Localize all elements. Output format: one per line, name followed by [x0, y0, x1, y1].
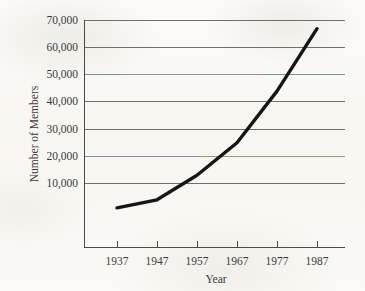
chart-canvas: 70,000 60,000 50,000 40,000 30,000 20,00… — [0, 0, 365, 291]
x-tick-label-1957: 1957 — [186, 255, 209, 267]
y-axis-title: Number of Members — [28, 85, 40, 182]
line-chart-figure: 70,000 60,000 50,000 40,000 30,000 20,00… — [0, 0, 365, 291]
x-tick-label-1947: 1947 — [146, 255, 169, 267]
x-axis-title: Year — [205, 273, 226, 285]
y-axis-tick-labels: 70,000 60,000 50,000 40,000 30,000 20,00… — [46, 14, 78, 190]
x-tick-label-1987: 1987 — [306, 255, 329, 267]
y-tick-label-20000: 20,000 — [46, 150, 78, 163]
x-tick-label-1937: 1937 — [106, 255, 129, 267]
data-series-group — [117, 29, 317, 208]
y-tick-label-50000: 50,000 — [46, 68, 78, 81]
x-tick-label-1967: 1967 — [226, 255, 249, 267]
y-tick-label-10000: 10,000 — [46, 177, 78, 190]
series-line-number-of-members — [117, 29, 317, 208]
y-tick-label-60000: 60,000 — [46, 41, 78, 54]
x-axis-tick-marks — [118, 241, 318, 247]
axes — [84, 20, 345, 248]
y-tick-label-70000: 70,000 — [46, 14, 78, 27]
y-tick-label-30000: 30,000 — [46, 123, 78, 136]
y-tick-label-40000: 40,000 — [46, 95, 78, 108]
x-tick-label-1977: 1977 — [266, 255, 289, 267]
x-axis-tick-labels: 1937 1947 1957 1967 1977 1987 — [106, 255, 329, 267]
